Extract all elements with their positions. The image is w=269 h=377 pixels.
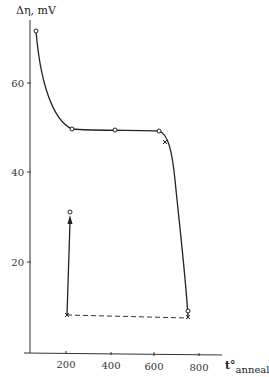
data-point-circle xyxy=(34,29,38,33)
y-tick-label: 60 xyxy=(11,78,24,89)
cross-marker xyxy=(163,140,167,144)
x-tick-label: 800 xyxy=(189,362,208,373)
chart: 60 40 20 200 400 600 800 Δη, mV t°anneal xyxy=(0,0,269,377)
arrowhead-icon xyxy=(68,215,73,224)
main-curve-markers xyxy=(34,29,190,313)
y-tick-label: 20 xyxy=(11,257,24,268)
y-tick-label: 40 xyxy=(11,167,24,178)
main-curve xyxy=(36,31,188,317)
data-point-circle xyxy=(70,127,74,131)
x-axis-title-sub: anneal xyxy=(236,364,269,375)
y-ticks: 60 40 20 xyxy=(11,78,31,268)
data-point-circle xyxy=(68,210,72,214)
x-tick-label: 400 xyxy=(101,360,120,371)
y-axis-title: Δη, mV xyxy=(16,4,57,17)
x-axis xyxy=(24,353,222,355)
x-tick-label: 200 xyxy=(56,359,75,370)
x-axis-title: t°anneal xyxy=(225,359,269,375)
x-axis-title-main: t° xyxy=(225,359,236,372)
data-point-circle xyxy=(157,129,161,133)
dashed-connector xyxy=(67,315,188,318)
cross-markers xyxy=(65,140,190,319)
re-anneal-arrow xyxy=(67,222,70,315)
data-point-circle xyxy=(113,128,117,132)
data-point-circle xyxy=(186,309,190,313)
x-tick-label: 600 xyxy=(144,361,163,372)
